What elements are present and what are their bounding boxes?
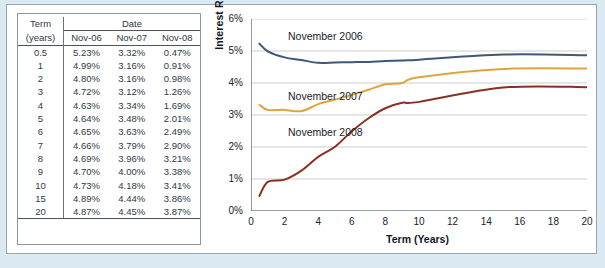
cell-nov06: 4.66%	[64, 139, 110, 152]
figure-panel: Term Date (years) Nov-06 Nov-07 Nov-08 0…	[6, 4, 597, 254]
term-units-header: (years)	[18, 31, 64, 45]
cell-nov08: 0.91%	[155, 59, 201, 72]
cell-nov07: 3.16%	[109, 59, 155, 72]
column-header-nov07: Nov-07	[109, 31, 155, 45]
cell-nov06: 4.89%	[64, 192, 110, 205]
cell-nov06: 4.87%	[64, 205, 110, 219]
table-row: 104.73%4.18%3.41%	[18, 179, 200, 192]
cell-nov07: 3.34%	[109, 99, 155, 112]
cell-term: 6	[18, 125, 64, 138]
x-tick-label: 2	[273, 216, 297, 227]
table-row: 24.80%3.16%0.98%	[18, 72, 200, 85]
cell-term: 15	[18, 192, 64, 205]
cell-nov06: 4.64%	[64, 112, 110, 125]
y-tick-label: 0%	[215, 205, 243, 216]
series-label-november-2006: November 2006	[288, 30, 363, 42]
cell-nov07: 4.18%	[109, 179, 155, 192]
table-row: 64.65%3.63%2.49%	[18, 125, 200, 138]
table-row: 34.72%3.12%1.26%	[18, 85, 200, 98]
cell-term: 7	[18, 139, 64, 152]
cell-nov06: 4.73%	[64, 179, 110, 192]
table-row: 74.66%3.79%2.90%	[18, 139, 200, 152]
table-head: Term Date (years) Nov-06 Nov-07 Nov-08	[18, 17, 200, 45]
column-header-nov08: Nov-08	[155, 31, 201, 45]
cell-nov08: 2.90%	[155, 139, 201, 152]
plot-area	[251, 19, 587, 211]
column-header-nov06: Nov-06	[64, 31, 110, 45]
cell-nov07: 4.44%	[109, 192, 155, 205]
cell-term: 5	[18, 112, 64, 125]
x-tick-label: 20	[575, 216, 599, 227]
cell-term: 8	[18, 152, 64, 165]
cell-nov07: 4.45%	[109, 205, 155, 219]
y-tick-label: 1%	[215, 173, 243, 184]
table-row: 154.89%4.44%3.86%	[18, 192, 200, 205]
cell-nov08: 0.98%	[155, 72, 201, 85]
y-tick-label: 5%	[215, 45, 243, 56]
cell-term: 2	[18, 72, 64, 85]
table-row: 44.63%3.34%1.69%	[18, 99, 200, 112]
cell-nov06: 4.72%	[64, 85, 110, 98]
cell-nov07: 3.63%	[109, 125, 155, 138]
cell-nov08: 1.69%	[155, 99, 201, 112]
x-axis-label: Term (Years)	[245, 233, 590, 245]
cell-term: 1	[18, 59, 64, 72]
cell-term: 20	[18, 205, 64, 219]
x-tick-label: 16	[508, 216, 532, 227]
table-row: 14.99%3.16%0.91%	[18, 59, 200, 72]
cell-nov08: 3.86%	[155, 192, 201, 205]
plot-svg	[251, 19, 587, 211]
yield-curve-chart: Interest Rate (EAR) Term (Years) 0%1%2%3…	[215, 11, 595, 251]
cell-nov08: 3.41%	[155, 179, 201, 192]
cell-nov06: 4.70%	[64, 165, 110, 178]
y-tick-label: 3%	[215, 109, 243, 120]
table-head-row-2: (years) Nov-06 Nov-07 Nov-08	[18, 31, 200, 45]
x-tick-label: 0	[239, 216, 263, 227]
cell-term: 10	[18, 179, 64, 192]
cell-term: 3	[18, 85, 64, 98]
date-group-header: Date	[64, 17, 201, 31]
y-tick-label: 4%	[215, 77, 243, 88]
cell-nov08: 0.47%	[155, 45, 201, 59]
table-row: 94.70%4.00%3.38%	[18, 165, 200, 178]
x-tick-label: 14	[474, 216, 498, 227]
cell-term: 9	[18, 165, 64, 178]
rates-table-container: Term Date (years) Nov-06 Nov-07 Nov-08 0…	[17, 13, 201, 245]
cell-nov08: 2.01%	[155, 112, 201, 125]
cell-nov07: 3.96%	[109, 152, 155, 165]
cell-nov07: 3.16%	[109, 72, 155, 85]
cell-nov07: 3.48%	[109, 112, 155, 125]
cell-nov08: 2.49%	[155, 125, 201, 138]
cell-nov06: 4.65%	[64, 125, 110, 138]
table-row: 0.55.23%3.32%0.47%	[18, 45, 200, 59]
y-tick-label: 6%	[215, 13, 243, 24]
table-row: 54.64%3.48%2.01%	[18, 112, 200, 125]
cell-nov07: 4.00%	[109, 165, 155, 178]
cell-nov06: 4.99%	[64, 59, 110, 72]
x-tick-label: 8	[373, 216, 397, 227]
cell-nov08: 3.21%	[155, 152, 201, 165]
cell-nov06: 4.63%	[64, 99, 110, 112]
cell-nov06: 5.23%	[64, 45, 110, 59]
x-tick-label: 4	[306, 216, 330, 227]
cell-nov08: 3.87%	[155, 205, 201, 219]
series-label-november-2008: November 2008	[288, 126, 363, 138]
rates-table: Term Date (years) Nov-06 Nov-07 Nov-08 0…	[18, 17, 200, 219]
x-tick-label: 18	[541, 216, 565, 227]
cell-nov08: 1.26%	[155, 85, 201, 98]
cell-nov08: 3.38%	[155, 165, 201, 178]
x-tick-label: 10	[407, 216, 431, 227]
y-tick-label: 2%	[215, 141, 243, 152]
cell-nov07: 3.79%	[109, 139, 155, 152]
x-tick-label: 12	[441, 216, 465, 227]
x-tick-label: 6	[340, 216, 364, 227]
table-body: 0.55.23%3.32%0.47%14.99%3.16%0.91%24.80%…	[18, 45, 200, 219]
table-head-row-1: Term Date	[18, 17, 200, 31]
cell-term: 0.5	[18, 45, 64, 59]
cell-nov07: 3.12%	[109, 85, 155, 98]
cell-term: 4	[18, 99, 64, 112]
cell-nov06: 4.69%	[64, 152, 110, 165]
series-line-november-2008	[259, 86, 587, 196]
cell-nov06: 4.80%	[64, 72, 110, 85]
series-label-november-2007: November 2007	[288, 90, 363, 102]
